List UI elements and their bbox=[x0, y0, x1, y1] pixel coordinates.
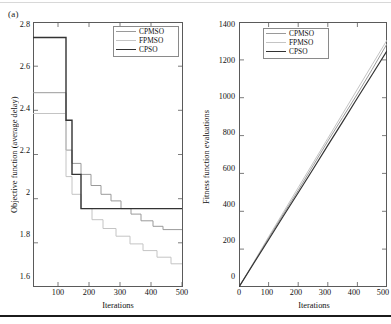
right-ytick-600: 600 bbox=[208, 164, 235, 173]
right-xtick-100: 100 bbox=[255, 288, 279, 297]
left-ytick-2p2: 2.2 bbox=[2, 146, 30, 155]
legend-label-cpso: CPSO bbox=[139, 45, 158, 54]
legend-item-fpmso: FPMSO bbox=[114, 36, 178, 45]
legend-label-cpmso-right: CPMSO bbox=[289, 29, 314, 38]
right-xtick-300: 300 bbox=[313, 288, 337, 297]
left-chart-legend: CPMSO FPMSO CPSO bbox=[113, 26, 179, 57]
legend-swatch-cpmso-right bbox=[266, 33, 286, 34]
left-xtick-200: 200 bbox=[77, 288, 101, 297]
legend-swatch-cpmso bbox=[116, 31, 136, 32]
left-xtick-400: 400 bbox=[139, 288, 163, 297]
right-xtick-400: 400 bbox=[342, 288, 366, 297]
figure-container: (a) Objective function (average delay) I… bbox=[0, 0, 391, 324]
left-ytick-1p6: 1.6 bbox=[2, 272, 30, 281]
legend-swatch-fpmso bbox=[116, 40, 136, 41]
panel-label-a: (a) bbox=[8, 9, 19, 19]
right-chart-ylabel: Fitness function evaluations bbox=[202, 60, 211, 255]
right-ytick-200: 200 bbox=[208, 236, 235, 245]
right-ytick-0: 0 bbox=[208, 272, 235, 281]
left-ytick-2: 2 bbox=[2, 188, 30, 197]
legend-item-cpso: CPSO bbox=[114, 45, 178, 54]
right-xtick-200: 200 bbox=[284, 288, 308, 297]
legend-swatch-cpso bbox=[116, 49, 136, 50]
right-ytick-800: 800 bbox=[208, 128, 235, 137]
left-ytick-2p4: 2.4 bbox=[2, 104, 30, 113]
right-ytick-1000: 1000 bbox=[205, 92, 235, 101]
legend-label-fpmso-right: FPMSO bbox=[289, 38, 313, 47]
left-xtick-300: 300 bbox=[108, 288, 132, 297]
legend-item-cpmso: CPMSO bbox=[114, 27, 178, 36]
right-ytick-1400: 1400 bbox=[205, 20, 235, 29]
bottom-rule bbox=[0, 315, 391, 317]
right-ytick-1200: 1200 bbox=[205, 56, 235, 65]
right-chart-legend: CPMSO FPMSO CPSO bbox=[263, 28, 329, 59]
right-chart-xlabel: Iterations bbox=[240, 301, 388, 310]
left-chart-xlabel: Iterations bbox=[44, 301, 192, 310]
left-ytick-2p6: 2.6 bbox=[2, 62, 30, 71]
left-ytick-2p8: 2.8 bbox=[2, 20, 30, 29]
legend-swatch-cpso-right bbox=[266, 51, 286, 52]
right-chart-plot bbox=[239, 22, 387, 287]
right-xtick-500: 500 bbox=[371, 288, 391, 297]
left-chart-plot bbox=[33, 22, 183, 287]
left-xtick-100: 100 bbox=[46, 288, 70, 297]
legend-label-cpmso: CPMSO bbox=[139, 27, 164, 36]
left-ytick-1p8: 1.8 bbox=[2, 230, 30, 239]
legend-item-cpmso-right: CPMSO bbox=[264, 29, 328, 38]
left-xtick-500: 500 bbox=[170, 288, 194, 297]
right-ytick-400: 400 bbox=[208, 200, 235, 209]
legend-label-cpso-right: CPSO bbox=[289, 47, 308, 56]
top-rule bbox=[0, 2, 391, 3]
legend-swatch-fpmso-right bbox=[266, 42, 286, 43]
right-xtick-0: 0 bbox=[227, 288, 251, 297]
legend-label-fpmso: FPMSO bbox=[139, 36, 163, 45]
legend-item-fpmso-right: FPMSO bbox=[264, 38, 328, 47]
legend-item-cpso-right: CPSO bbox=[264, 47, 328, 56]
